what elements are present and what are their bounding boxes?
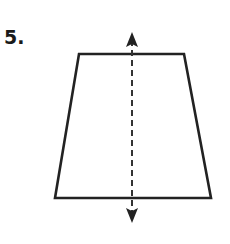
trapezoid-figure [0, 0, 230, 244]
